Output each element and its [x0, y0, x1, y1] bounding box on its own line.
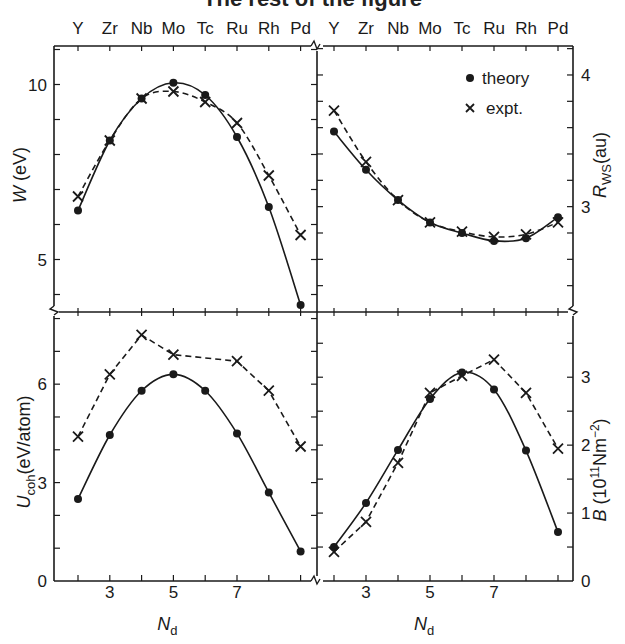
expt-point — [105, 369, 115, 379]
element-label: Pd — [290, 19, 311, 38]
legend: theoryexpt. — [466, 69, 530, 118]
element-label: Y — [328, 19, 339, 38]
element-label: Ru — [226, 19, 248, 38]
theory-point — [233, 133, 241, 141]
expt-point — [264, 386, 274, 396]
element-label: Mo — [162, 19, 186, 38]
expt-curve — [78, 335, 301, 447]
theory-point — [297, 301, 305, 309]
y-tick-label-ucoh: 3 — [38, 474, 47, 493]
y-tick-label-ucoh: 0 — [38, 572, 47, 591]
theory-point — [554, 528, 562, 536]
element-label: Zr — [102, 19, 118, 38]
y-tick-label-b: 3 — [581, 368, 590, 387]
element-label: Nb — [387, 19, 409, 38]
element-label: Pd — [548, 19, 569, 38]
legend-theory-label: theory — [482, 69, 530, 88]
axis-ticks — [54, 46, 573, 581]
theory-point — [362, 166, 370, 174]
y-tick-label-ucoh: 6 — [38, 375, 47, 394]
expt-point — [296, 442, 306, 452]
element-label: Mo — [418, 19, 442, 38]
theory-point — [74, 207, 82, 215]
expt-point — [73, 432, 83, 442]
theory-point — [458, 229, 466, 237]
expt-point — [489, 355, 499, 365]
expt-point — [232, 118, 242, 128]
element-label: Nb — [131, 19, 153, 38]
expt-point — [264, 171, 274, 181]
expt-point — [361, 517, 371, 527]
y-tick-label-rws: 3 — [581, 198, 590, 217]
theory-point — [330, 128, 338, 136]
x-tick-label: 3 — [361, 583, 370, 602]
expt-point — [73, 192, 83, 202]
theory-point — [201, 387, 209, 395]
theory-curve — [334, 132, 558, 242]
theory-point — [265, 203, 273, 211]
expt-curve — [334, 111, 558, 238]
y-axis-label-w: W (eV) — [10, 147, 30, 203]
x-axis-label: Nd — [157, 614, 177, 638]
expt-point — [329, 106, 339, 116]
element-label: Zr — [358, 19, 374, 38]
theory-point — [169, 79, 177, 87]
theory-point — [362, 499, 370, 507]
x-tick-label: 5 — [425, 583, 434, 602]
expt-point — [137, 330, 147, 340]
theory-point — [522, 447, 530, 455]
expt-point — [393, 458, 403, 468]
y-tick-label-w: 5 — [38, 251, 47, 270]
data-series — [73, 79, 563, 557]
theory-point — [138, 387, 146, 395]
element-label: Rh — [258, 19, 280, 38]
expt-curve — [78, 91, 301, 235]
element-label: Tc — [197, 19, 215, 38]
theory-curve — [78, 83, 301, 305]
element-label: Tc — [454, 19, 472, 38]
theory-point — [169, 370, 177, 378]
y-axis-label-ucoh: Ucoh(eV/atom) — [14, 396, 38, 509]
theory-point — [74, 495, 82, 503]
expt-point — [553, 444, 563, 454]
theory-point — [297, 547, 305, 555]
theory-point — [233, 429, 241, 437]
element-label: Ru — [483, 19, 505, 38]
theory-point — [106, 431, 114, 439]
theory-point — [394, 446, 402, 454]
expt-point — [521, 388, 531, 398]
y-axis-label-b: B (1011Nm−2) — [588, 418, 610, 521]
theory-point — [265, 488, 273, 496]
expt-point — [232, 356, 242, 366]
theory-point — [201, 91, 209, 99]
y-tick-label-b: 0 — [581, 572, 590, 591]
axis-labels: YYZrZrNbNbMoMoTcTcRuRuRhRhPdPd1054303601… — [10, 19, 614, 638]
x-tick-label: 5 — [169, 583, 178, 602]
y-tick-label-w: 10 — [28, 76, 47, 95]
theory-point — [490, 385, 498, 393]
legend-expt-label: expt. — [486, 99, 523, 118]
y-axis-label-rws: RWS(au) — [590, 132, 614, 198]
x-tick-label: 3 — [105, 583, 114, 602]
legend-theory-marker — [466, 74, 474, 82]
element-label: Rh — [515, 19, 537, 38]
x-axis-label: Nd — [414, 614, 434, 638]
y-tick-label-rws: 4 — [581, 66, 590, 85]
x-tick-label: 7 — [232, 583, 241, 602]
theory-curve — [78, 374, 301, 551]
x-tick-label: 7 — [489, 583, 498, 602]
axes-frame — [49, 41, 578, 586]
expt-point — [296, 230, 306, 240]
legend-expt-marker — [466, 104, 474, 112]
figure-canvas: YYZrZrNbNbMoMoTcTcRuRuRhRhPdPd1054303601… — [0, 0, 625, 644]
expt-point — [361, 157, 371, 167]
element-label: Y — [72, 19, 83, 38]
